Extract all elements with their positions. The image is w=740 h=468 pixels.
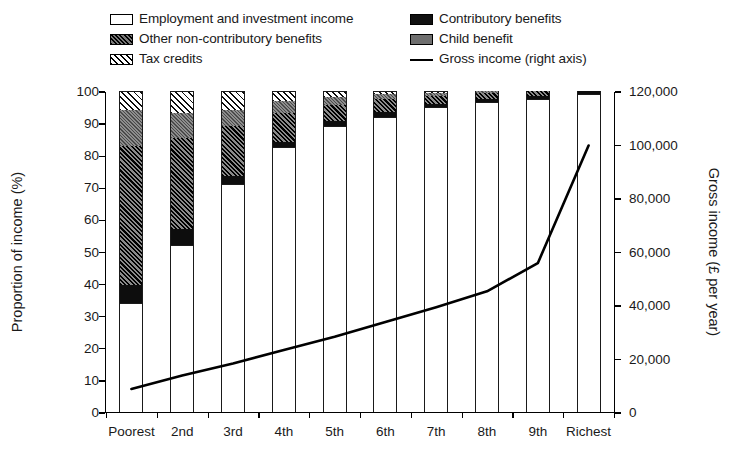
chart-root: Employment and investment income Other n… [0, 0, 740, 468]
y-axis-left-tick-label: 40 [84, 278, 99, 291]
y-axis-right-tick-label: 120,000 [629, 85, 678, 98]
y-axis-left-tick [99, 123, 105, 124]
y-axis-right-title-text: Gross income (£ per year) [706, 168, 722, 336]
y-axis-left-tick-label: 100 [76, 85, 99, 98]
x-axis-tick [462, 412, 463, 418]
y-axis-left-tick [99, 348, 105, 349]
y-axis-right-tick-label: 40,000 [629, 299, 670, 312]
y-axis-left-tick [99, 316, 105, 317]
y-axis-right-tick [615, 198, 621, 199]
y-axis-right-tick [615, 252, 621, 253]
x-axis-tick [309, 412, 310, 418]
x-axis-tick [614, 412, 615, 418]
legend-swatch-black-icon [410, 14, 433, 25]
x-axis-label-poorest: Poorest [106, 424, 157, 439]
legend-swatch-light-hatch-icon [110, 54, 133, 65]
legend-item-gross-income: Gross income (right axis) [410, 50, 587, 68]
y-axis-left-tick-label: 30 [84, 310, 99, 323]
legend-item-child-benefit: Child benefit [410, 30, 513, 48]
x-axis-tick [106, 412, 107, 418]
x-axis-label-9th: 9th [512, 424, 563, 439]
x-axis-label-4th: 4th [258, 424, 309, 439]
y-axis-left-tick-label: 0 [91, 406, 99, 419]
x-axis-label-6th: 6th [360, 424, 411, 439]
legend-swatch-grey-icon [410, 34, 433, 45]
gross-income-polyline [131, 146, 588, 389]
y-axis-left-tick [99, 412, 105, 413]
y-axis-left-tick [99, 380, 105, 381]
x-axis-label-richest: Richest [563, 424, 614, 439]
legend-label: Child benefit [439, 32, 513, 46]
chart-legend: Employment and investment income Other n… [110, 10, 630, 72]
y-axis-left-tick-label: 90 [84, 117, 99, 130]
y-axis-left-tick [99, 91, 105, 92]
x-axis-label-2nd: 2nd [157, 424, 208, 439]
legend-label: Tax credits [139, 52, 202, 66]
legend-item-contributory-benefits: Contributory benefits [410, 10, 561, 28]
y-axis-right-tick [615, 305, 621, 306]
legend-item-tax-credits: Tax credits [110, 50, 202, 68]
x-axis-label-5th: 5th [309, 424, 360, 439]
y-axis-right-tick-label: 100,000 [629, 139, 678, 152]
y-axis-right-tick-label: 0 [629, 406, 637, 419]
legend-swatch-dense-hatch-icon [110, 34, 133, 45]
legend-label: Other non-contributory benefits [139, 32, 322, 46]
x-axis-tick [360, 412, 361, 418]
y-axis-left-tick-label: 20 [84, 342, 99, 355]
y-axis-left-tick-label: 80 [84, 149, 99, 162]
y-axis-left-tick-label: 60 [84, 213, 99, 226]
y-axis-left-tick [99, 284, 105, 285]
x-axis-label-3rd: 3rd [208, 424, 259, 439]
y-axis-left-tick [99, 220, 105, 221]
y-axis-left-tick [99, 156, 105, 157]
y-axis-right-tick [615, 359, 621, 360]
x-axis-label-8th: 8th [462, 424, 513, 439]
y-axis-right-tick-label: 20,000 [629, 353, 670, 366]
x-axis-tick [512, 412, 513, 418]
y-axis-right-tick [615, 91, 621, 92]
y-axis-left-tick [99, 188, 105, 189]
legend-swatch-line-icon [410, 54, 433, 65]
legend-label: Employment and investment income [139, 12, 353, 26]
legend-label: Contributory benefits [439, 12, 561, 26]
y-axis-left-title-text: Proportion of income (%) [9, 172, 25, 332]
legend-item-employment-and-investment-income: Employment and investment income [110, 10, 353, 28]
y-axis-left-title: Proportion of income (%) [6, 92, 28, 412]
y-axis-left-tick-label: 50 [84, 246, 99, 259]
y-axis-left-tick [99, 252, 105, 253]
y-axis-right-tick [615, 145, 621, 146]
y-axis-right-tick [615, 412, 621, 413]
legend-swatch-white-icon [110, 14, 133, 25]
gross-income-line [106, 92, 614, 413]
x-axis-tick [563, 412, 564, 418]
plot-area: 0102030405060708090100 020,00040,00060,0… [106, 92, 614, 412]
x-axis-tick [258, 412, 259, 418]
y-axis-right-title: Gross income (£ per year) [702, 92, 726, 412]
y-axis-left-tick-label: 10 [84, 374, 99, 387]
legend-item-other-non-contributory-benefits: Other non-contributory benefits [110, 30, 322, 48]
y-axis-right-tick-label: 60,000 [629, 246, 670, 259]
x-axis-tick [411, 412, 412, 418]
y-axis-left-tick-label: 70 [84, 181, 99, 194]
y-axis-right-tick-label: 80,000 [629, 192, 670, 205]
x-axis-tick [157, 412, 158, 418]
x-axis-tick [208, 412, 209, 418]
x-axis-label-7th: 7th [411, 424, 462, 439]
legend-label: Gross income (right axis) [439, 52, 587, 66]
